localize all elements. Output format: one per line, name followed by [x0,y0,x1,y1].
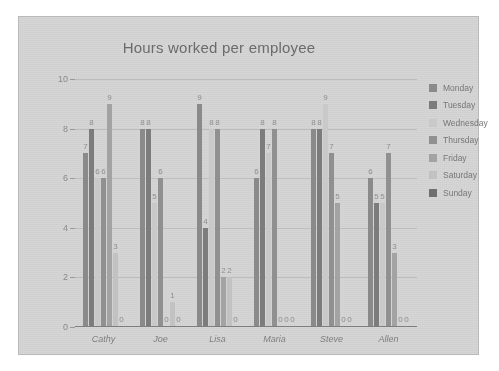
bar-value-label: 9 [323,93,327,102]
legend-swatch [429,189,437,197]
bar-value-label: 8 [140,118,144,127]
legend-swatch [429,84,437,92]
x-axis-category-label: Allen [378,334,398,344]
legend-item[interactable]: Monday [429,79,499,97]
bar[interactable]: 9 [107,104,112,327]
legend-label: Sunday [443,188,472,198]
y-axis-tick-label: 10 [58,74,68,84]
bar[interactable]: 5 [380,203,385,327]
chart-title: Hours worked per employee [19,39,419,56]
x-axis-line [75,326,417,327]
bar[interactable]: 5 [335,203,340,327]
x-axis-category-label: Lisa [209,334,226,344]
bar-value-label: 8 [311,118,315,127]
bar-value-label: 5 [380,192,384,201]
y-axis-tick-label: 8 [63,124,68,134]
bar-value-label: 5 [335,192,339,201]
bar-group: 8856010Joe [132,79,189,327]
bar[interactable]: 6 [158,178,163,327]
bar[interactable]: 8 [260,129,265,327]
bar[interactable]: 8 [89,129,94,327]
bar-value-label: 0 [164,315,168,324]
chart-card: Hours worked per employee 0246810 786693… [18,16,479,355]
bar-value-label: 3 [113,242,117,251]
bar-value-label: 1 [170,291,174,300]
bar-value-label: 5 [374,192,378,201]
bar-value-label: 0 [341,315,345,324]
bar[interactable]: 7 [83,153,88,327]
bar-value-label: 5 [152,192,156,201]
bar[interactable]: 9 [197,104,202,327]
bar[interactable]: 8 [209,129,214,327]
bar[interactable]: 5 [374,203,379,327]
bar[interactable]: 2 [221,277,226,327]
y-axis-tick-mark [70,327,75,328]
bar[interactable]: 8 [272,129,277,327]
bar-group: 7866930Cathy [75,79,132,327]
bar-value-label: 0 [278,315,282,324]
legend-swatch [429,119,437,127]
bar[interactable]: 3 [392,253,397,327]
bar[interactable]: 7 [329,153,334,327]
bar[interactable]: 8 [140,129,145,327]
bar-value-label: 2 [221,266,225,275]
y-axis-tick-label: 4 [63,223,68,233]
bar-value-label: 6 [95,167,99,176]
legend-item[interactable]: Saturday [429,167,499,185]
bar-value-label: 4 [203,217,207,226]
bar[interactable]: 6 [254,178,259,327]
bar[interactable]: 8 [146,129,151,327]
legend-label: Saturday [443,170,477,180]
bar-value-label: 6 [101,167,105,176]
bar-value-label: 6 [158,167,162,176]
legend-swatch [429,101,437,109]
legend-item[interactable]: Friday [429,149,499,167]
bar-value-label: 6 [254,167,258,176]
legend-item[interactable]: Thursday [429,132,499,150]
bar-value-label: 7 [386,142,390,151]
x-axis-category-label: Steve [320,334,343,344]
bar-value-label: 7 [83,142,87,151]
bar-group: 6557300Allen [360,79,417,327]
bar-value-label: 8 [272,118,276,127]
bar-value-label: 0 [398,315,402,324]
bar[interactable]: 5 [152,203,157,327]
bar-value-label: 8 [260,118,264,127]
y-axis-tick-label: 0 [63,322,68,332]
bar[interactable]: 6 [95,178,100,327]
bar-value-label: 8 [89,118,93,127]
legend-label: Tuesday [443,100,475,110]
legend-item[interactable]: Wednesday [429,114,499,132]
chart-legend: MondayTuesdayWednesdayThursdayFridaySatu… [429,79,499,202]
bar[interactable]: 3 [113,253,118,327]
bar[interactable]: 1 [170,302,175,327]
bar-value-label: 0 [176,315,180,324]
bar[interactable]: 6 [368,178,373,327]
bar[interactable]: 8 [215,129,220,327]
legend-swatch [429,171,437,179]
bar-value-label: 9 [107,93,111,102]
legend-swatch [429,136,437,144]
bar[interactable]: 7 [386,153,391,327]
legend-label: Wednesday [443,118,488,128]
bar-value-label: 0 [284,315,288,324]
bar[interactable]: 8 [317,129,322,327]
bar[interactable]: 8 [311,129,316,327]
y-axis-tick-label: 2 [63,272,68,282]
bar[interactable]: 9 [323,104,328,327]
bar-value-label: 0 [233,315,237,324]
bar-value-label: 7 [329,142,333,151]
legend-item[interactable]: Sunday [429,184,499,202]
legend-item[interactable]: Tuesday [429,97,499,115]
screenshot-frame: Hours worked per employee 0246810 786693… [0,0,499,371]
bar-value-label: 9 [197,93,201,102]
bar-value-label: 0 [347,315,351,324]
bar[interactable]: 2 [227,277,232,327]
bar[interactable]: 4 [203,228,208,327]
bar-value-label: 8 [209,118,213,127]
bar-group: 6878000Maria [246,79,303,327]
bar-group: 8897500Steve [303,79,360,327]
bar[interactable]: 6 [101,178,106,327]
x-axis-category-label: Maria [263,334,286,344]
bar[interactable]: 7 [266,153,271,327]
